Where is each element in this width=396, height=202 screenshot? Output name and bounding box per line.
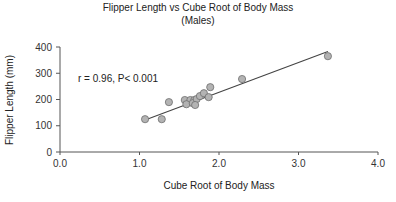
regression-line bbox=[145, 51, 328, 120]
data-point bbox=[158, 116, 165, 123]
x-tick-label: 1.0 bbox=[133, 158, 147, 169]
scatter-plot: 0.01.02.03.04.00100200300400 r = 0.96, P… bbox=[0, 0, 396, 202]
data-points bbox=[141, 53, 331, 123]
data-point bbox=[238, 75, 245, 82]
x-tick-label: 4.0 bbox=[371, 158, 385, 169]
data-point bbox=[205, 94, 212, 101]
x-tick-label: 3.0 bbox=[292, 158, 306, 169]
y-tick-label: 100 bbox=[35, 120, 52, 131]
y-tick-label: 400 bbox=[35, 42, 52, 53]
data-point bbox=[165, 99, 172, 106]
y-tick-label: 300 bbox=[35, 68, 52, 79]
data-point bbox=[207, 84, 214, 91]
axes bbox=[60, 47, 378, 152]
data-point bbox=[192, 101, 199, 108]
y-tick-label: 200 bbox=[35, 94, 52, 105]
axis-ticks: 0.01.02.03.04.00100200300400 bbox=[35, 42, 385, 170]
x-tick-label: 2.0 bbox=[212, 158, 226, 169]
x-tick-label: 0.0 bbox=[53, 158, 67, 169]
data-point bbox=[141, 116, 148, 123]
correlation-annotation: r = 0.96, P< 0.001 bbox=[78, 73, 158, 84]
y-tick-label: 0 bbox=[46, 147, 52, 158]
data-point bbox=[324, 53, 331, 60]
